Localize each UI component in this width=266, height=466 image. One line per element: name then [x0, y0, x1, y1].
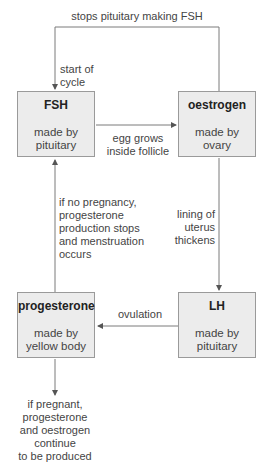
egg-grows-label: egg grows inside follicle: [100, 132, 176, 158]
node-progesterone: progesterone made by yellow body: [17, 292, 95, 358]
pregnancy-outcome-label: if pregnant, progesterone and oestrogen …: [10, 398, 100, 463]
node-subtitle: made by pituitary: [179, 327, 255, 353]
node-oestrogen: oestrogen made by ovary: [178, 91, 256, 157]
feedback-label: stops pituitary making FSH: [62, 10, 212, 23]
ovulation-label: ovulation: [105, 308, 175, 321]
node-subtitle: made by ovary: [179, 126, 255, 152]
node-title: FSH: [18, 99, 94, 112]
no-pregnancy-label: if no pregnancy, progesterone production…: [59, 196, 144, 261]
uterus-lining-label: lining of uterus thickens: [160, 208, 215, 247]
node-lh: LH made by pituitary: [178, 292, 256, 358]
hormone-cycle-diagram: stops pituitary making FSH start of cycl…: [0, 0, 266, 466]
node-title: progesterone: [18, 300, 94, 313]
node-title: oestrogen: [179, 99, 255, 112]
start-of-cycle-label: start of cycle: [60, 63, 94, 89]
node-subtitle: made by pituitary: [18, 126, 94, 152]
node-title: LH: [179, 300, 255, 313]
node-fsh: FSH made by pituitary: [17, 91, 95, 157]
node-subtitle: made by yellow body: [18, 327, 94, 353]
